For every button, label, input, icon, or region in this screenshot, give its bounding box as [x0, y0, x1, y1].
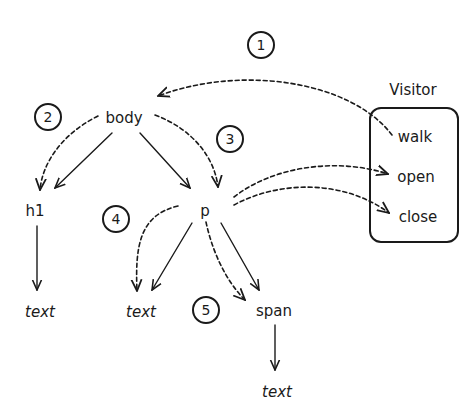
visitor-method-walk: walk	[398, 130, 432, 145]
node-body: body	[105, 111, 142, 126]
step-badge-3: 3	[216, 125, 244, 153]
node-span-text: text	[262, 385, 292, 400]
edge-p-text	[152, 223, 192, 290]
node-span: span	[256, 304, 292, 319]
visitor-pattern-diagram: body h1 p text text span text Visitor wa…	[0, 0, 471, 416]
step-badge-1: 1	[247, 31, 275, 59]
visitor-method-close: close	[399, 210, 438, 225]
node-h1-text: text	[25, 305, 55, 320]
visitor-title: Visitor	[389, 83, 436, 98]
node-p: p	[200, 204, 210, 219]
edge-p-span	[221, 223, 259, 290]
flow-p-to-open	[234, 166, 388, 197]
step-badge-4: 4	[102, 205, 130, 233]
flow-body-to-p	[155, 115, 218, 187]
node-h1: h1	[25, 204, 44, 219]
step-badge-2: 2	[34, 103, 62, 131]
flow-p-to-span	[206, 222, 245, 300]
node-p-text: text	[126, 305, 156, 320]
flow-p-to-close	[234, 187, 389, 213]
flow-p-to-text	[137, 206, 178, 291]
visitor-method-open: open	[397, 170, 434, 185]
step-badge-5: 5	[192, 296, 220, 324]
edge-body-p	[140, 133, 190, 188]
flow-walk-to-body	[158, 80, 392, 135]
